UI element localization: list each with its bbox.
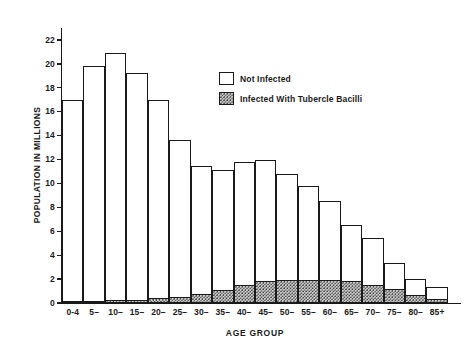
bar-column [212,28,233,303]
bar-segment-infected [106,300,125,302]
bar-column [255,28,276,303]
bar-column [384,28,405,303]
bar-10– [105,53,126,303]
x-axis-tick-label: 10– [105,307,126,317]
bar-segment-infected [84,301,103,302]
bar-segment-infected [277,280,296,302]
y-axis-tick-label: 2 [50,275,57,284]
bar-segment-infected [170,297,189,302]
y-axis-tick-label: 18 [45,84,57,93]
bar-70– [362,238,383,303]
bar-column [426,28,447,303]
population-tuberculosis-bar-chart: POPULATION IN MILLIONS 02468101214161820… [0,0,472,355]
bar-segment-infected [385,289,404,302]
bar-65– [341,225,362,303]
y-axis-tick-label: 0 [50,299,57,308]
bar-segment-infected [256,281,275,302]
x-axis-tick-label: 65– [341,307,362,317]
bar-series-group [62,28,448,303]
y-axis-tick-label: 20 [45,60,57,69]
x-axis-tick-label: 30– [191,307,212,317]
chart-legend: Not Infected Infected With Tubercle Baci… [219,72,362,105]
bar-column [276,28,297,303]
bar-5– [83,66,104,303]
bar-30– [191,166,212,304]
bar-column [234,28,255,303]
y-axis-tick-label: 10 [45,179,57,188]
bar-segment-infected [299,280,318,302]
bar-80– [405,279,426,303]
bar-60– [319,201,340,303]
x-axis-tick-labels: 0-45–10–15–20–25–30–35–40–45–50–55–60–65… [62,307,448,317]
x-axis-tick-label: 60– [319,307,340,317]
bar-15– [126,73,147,303]
y-axis-tick-label: 22 [45,36,57,45]
y-axis-tick-label: 6 [50,227,57,236]
x-axis-tick-label: 0-4 [62,307,83,317]
bar-0-4 [62,100,83,303]
y-axis-tick-label: 12 [45,155,57,164]
bar-column [126,28,147,303]
bar-column [62,28,83,303]
y-axis-tick-label: 8 [50,203,57,212]
bar-segment-infected [235,285,254,302]
bar-25– [169,140,190,303]
bar-segment-infected [427,299,446,302]
bar-segment-infected [363,285,382,302]
x-axis-line [61,303,461,304]
bar-segment-infected [320,280,339,302]
legend-swatch-infected-icon [219,92,234,105]
legend-item-not-infected: Not Infected [219,72,362,85]
bar-column [362,28,383,303]
bar-50– [276,174,297,303]
bar-55– [298,186,319,303]
bar-column [105,28,126,303]
bar-segment-infected [342,281,361,302]
x-axis-tick-label: 50– [276,307,297,317]
legend-label-infected: Infected With Tubercle Bacilli [240,94,362,104]
bar-85+ [426,287,447,303]
bar-segment-infected [192,294,211,302]
x-axis-tick-label: 55– [298,307,319,317]
bar-segment-infected [406,295,425,302]
bar-column [341,28,362,303]
x-axis-tick-label: 5– [83,307,104,317]
x-axis-tick-label: 40– [234,307,255,317]
bar-column [298,28,319,303]
x-axis-tick-label: 70– [362,307,383,317]
bar-45– [255,160,276,303]
x-axis-tick-label: 45– [255,307,276,317]
bar-20– [148,100,169,303]
x-axis-tick-label: 25– [169,307,190,317]
bar-40– [234,162,255,303]
x-axis-tick-label: 35– [212,307,233,317]
plot-area: 0246810121416182022 [62,28,448,303]
bar-segment-infected [149,298,168,302]
bar-column [319,28,340,303]
bar-35– [212,170,233,303]
y-axis-tick-label: 16 [45,107,57,116]
bar-column [405,28,426,303]
bar-segment-infected [213,290,232,302]
x-axis-tick-label: 85+ [426,307,447,317]
bar-column [191,28,212,303]
bar-column [169,28,190,303]
y-axis-title: POPULATION IN MILLIONS [32,65,42,265]
bar-segment-infected [127,300,146,302]
legend-swatch-not-infected-icon [219,72,234,85]
x-axis-tick-label: 80– [405,307,426,317]
legend-label-not-infected: Not Infected [240,74,291,84]
y-axis-tick-label: 14 [45,131,57,140]
bar-column [83,28,104,303]
x-axis-tick-label: 75– [384,307,405,317]
legend-item-infected: Infected With Tubercle Bacilli [219,92,362,105]
bar-column [148,28,169,303]
bar-segment-infected [63,301,82,302]
x-axis-tick-label: 15– [126,307,147,317]
x-axis-title: AGE GROUP [62,328,448,338]
y-axis-tick-label: 4 [50,251,57,260]
x-axis-tick-label: 20– [148,307,169,317]
bar-75– [384,263,405,303]
